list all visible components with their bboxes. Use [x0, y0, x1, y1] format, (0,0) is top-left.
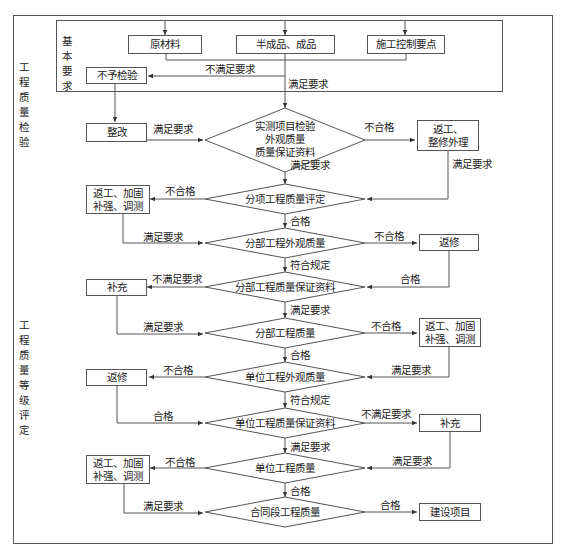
node-rework-reinforce-2: 返工、加固补强、调测	[419, 318, 481, 347]
edge-label-div-q-pass: 合格	[290, 349, 310, 361]
decision-division-docs: 分部工程质量保证资料	[220, 281, 350, 294]
node-raw-materials: 原材料	[128, 35, 202, 54]
node-construction-control: 施工控制要点	[367, 35, 445, 54]
node-construction-project: 建设项目	[419, 503, 481, 521]
edge-label-rectify-meet: 满足要求	[153, 123, 193, 135]
node-rework-reinforce-3: 返工、加固补强、调测	[86, 455, 150, 484]
decision-contract-quality: 合同段工程质量	[225, 506, 345, 519]
section-label-inspection: 工程质量检验	[18, 60, 30, 150]
node-semi-finished: 半成品、成品	[236, 35, 335, 54]
decision-unit-docs: 单位工程质量保证资料	[220, 417, 350, 430]
node-rework-repair-top-line1: 返工、	[433, 123, 463, 136]
edge-label-not-meet-top: 不满足要求	[205, 63, 255, 75]
edge-label-div-docs-notmeet: 不满足要求	[152, 273, 202, 285]
edge-label-rework-top-meet: 满足要求	[452, 158, 492, 170]
edge-label-rework1-meet: 满足要求	[143, 231, 183, 243]
edge-label-subitem-pass: 合格	[290, 215, 310, 227]
section-label-grading: 工程质量等级评定	[18, 318, 30, 438]
edge-label-unit-app-fail: 不合格	[163, 364, 193, 376]
node-repair-2: 返修	[86, 369, 147, 386]
section-label-basic-requirements: 基本要求	[61, 34, 73, 94]
edge-label-div-q-fail: 不合格	[371, 320, 401, 332]
decision-unit-quality: 单位工程质量	[225, 462, 345, 475]
edge-label-div-app-fail: 不合格	[374, 230, 404, 242]
edge-label-supp2-meet: 满足要求	[392, 455, 432, 467]
edge-label-repair1-pass: 合格	[400, 273, 420, 285]
edge-label-subitem-fail: 不合格	[165, 185, 195, 197]
decision-division-quality: 分部工程质量	[225, 327, 345, 340]
edge-label-repair2-pass: 合格	[153, 410, 173, 422]
edge-label-meet-top: 满足要求	[288, 78, 328, 90]
edge-label-measured-meet: 满足要求	[290, 159, 330, 171]
node-supplement-2: 补充	[419, 414, 481, 432]
node-rectify: 整改	[86, 123, 147, 142]
node-supplement-1: 补充	[86, 279, 147, 296]
edge-label-div-docs-meet: 满足要求	[290, 304, 330, 316]
edge-label-contract-pass: 合格	[380, 499, 400, 511]
edge-label-unit-q-pass: 合格	[290, 485, 310, 497]
edge-label-measured-fail: 不合格	[364, 121, 394, 133]
edge-label-unit-q-fail: 不合格	[165, 456, 195, 468]
edge-label-unit-docs-meet: 满足要求	[290, 441, 330, 453]
decision-unit-appearance: 单位工程外观质量	[225, 371, 345, 384]
node-rework-reinforce-1: 返工、加固补强、调测	[86, 185, 150, 214]
edge-label-unit-app-ok: 符合规定	[290, 394, 330, 406]
node-rework-repair-top: 返工、 整修外理	[417, 120, 479, 151]
node-no-inspection: 不予检验	[86, 67, 147, 84]
edge-label-rework3-meet: 满足要求	[143, 500, 183, 512]
decision-division-appearance: 分部工程外观质量	[225, 237, 345, 250]
node-rework-repair-top-line2: 整修外理	[428, 136, 468, 149]
edge-label-rework2-meet: 满足要求	[391, 364, 431, 376]
edge-label-unit-docs-notmeet: 不满足要求	[361, 408, 411, 420]
decision-measured-items: 实测项目检验 外观质量 质量保证资料	[235, 120, 335, 159]
edge-label-div-app-ok: 符合规定	[290, 259, 330, 271]
decision-sub-item-eval: 分项工程质量评定	[225, 193, 345, 206]
node-repair-1: 返修	[419, 234, 479, 251]
edge-label-supp1-meet: 满足要求	[143, 321, 183, 333]
